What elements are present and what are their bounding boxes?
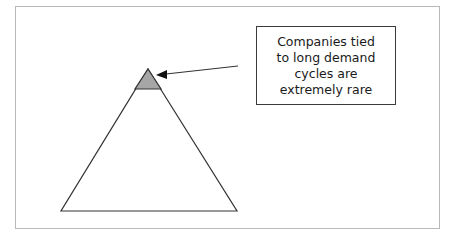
callout-arrow-line [166,66,238,74]
callout-arrowhead-icon [156,70,167,79]
pyramid-apex-highlight [135,69,161,89]
pyramid-triangle [61,69,237,211]
callout-box: Companies tied to long demand cycles are… [256,26,396,105]
callout-text: Companies tied to long demand cycles are… [277,34,376,98]
